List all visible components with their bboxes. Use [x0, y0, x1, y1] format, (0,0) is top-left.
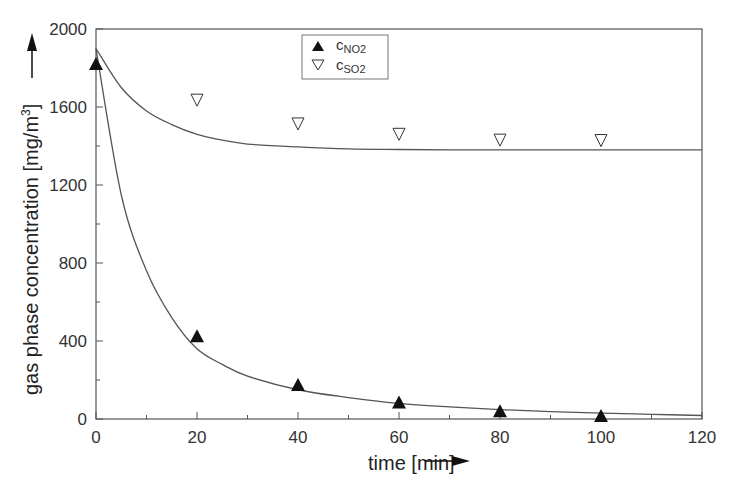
data-markers: [89, 57, 608, 422]
y-tick-label: 800: [59, 254, 87, 273]
y-tick-label: 2000: [49, 20, 87, 39]
data-point-so2: [292, 118, 304, 130]
x-tick-label: 60: [390, 428, 409, 447]
x-axis-title: time [min]: [368, 452, 455, 474]
x-tick-label: 40: [289, 428, 308, 447]
data-point-no2: [392, 395, 406, 408]
legend: cNO2 cSO2: [302, 35, 388, 79]
data-point-no2: [594, 409, 608, 422]
data-point-so2: [595, 135, 607, 147]
x-tick-label: 100: [587, 428, 615, 447]
y-tick-label: 1600: [49, 98, 87, 117]
data-point-so2: [393, 128, 405, 140]
data-point-no2: [291, 378, 305, 391]
x-tick-label: 120: [688, 428, 716, 447]
fit-curve-no2: [96, 49, 702, 416]
tick-labels: 0204060801001200400800120016002000: [49, 20, 716, 447]
data-point-no2: [190, 329, 204, 342]
data-point-so2: [191, 94, 203, 106]
plot-frame: [96, 29, 702, 419]
y-tick-label: 1200: [49, 176, 87, 195]
y-tick-label: 400: [59, 332, 87, 351]
fit-curves: [96, 49, 702, 416]
y-tick-label: 0: [78, 410, 87, 429]
data-point-no2: [89, 57, 103, 70]
y-axis-arrow-icon: [27, 33, 37, 78]
data-point-no2: [493, 404, 507, 417]
x-tick-label: 20: [188, 428, 207, 447]
data-point-so2: [494, 134, 506, 146]
concentration-chart: 0204060801001200400800120016002000 cNO2 …: [0, 0, 732, 488]
axis-ticks: [96, 29, 702, 419]
x-tick-label: 80: [491, 428, 510, 447]
x-tick-label: 0: [91, 428, 100, 447]
y-axis-title: gas phase concentration [mg/m3]: [19, 104, 42, 395]
